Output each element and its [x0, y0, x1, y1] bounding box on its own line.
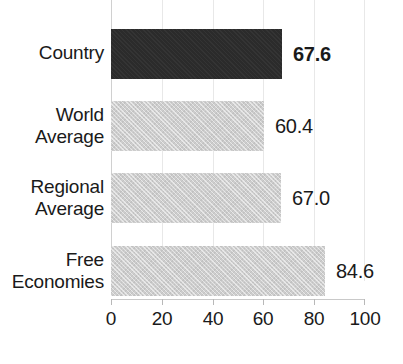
category-label-line1: World — [0, 104, 104, 126]
value-label-free-economies: 84.6 — [336, 261, 374, 281]
x-tick-100 — [364, 299, 365, 305]
category-label-line1: Free — [0, 249, 104, 271]
category-label-line2: Average — [0, 198, 104, 220]
category-label-regional-average: Regional Average — [0, 176, 104, 220]
x-tick-20 — [162, 299, 163, 305]
value-label-regional-average: 67.0 — [292, 188, 330, 208]
bar-chart: Country 67.6 World Average 60.4 Regional… — [0, 0, 403, 364]
value-label-world-average: 60.4 — [275, 116, 313, 136]
bar-row-free-economies: Free Economies 84.6 — [0, 246, 403, 296]
chart-title — [0, 0, 403, 2]
bar-regional-average — [111, 173, 281, 223]
x-tick-40 — [213, 299, 214, 305]
x-tick-60 — [263, 299, 264, 305]
x-tick-80 — [314, 299, 315, 305]
category-label-country: Country — [0, 42, 104, 64]
category-label-line1: Regional — [0, 176, 104, 198]
bar-world-average — [111, 101, 264, 151]
value-label-country: 67.6 — [293, 44, 331, 64]
category-label-world-average: World Average — [0, 104, 104, 148]
bar-country — [111, 29, 282, 79]
category-label-line2: Average — [0, 126, 104, 148]
category-label-line2: Economies — [0, 271, 104, 293]
bar-free-economies — [111, 246, 325, 296]
category-label-line1: Country — [0, 42, 104, 64]
x-tick-0 — [111, 299, 112, 305]
x-tick-label-100: 100 — [335, 308, 395, 330]
bar-row-world-average: World Average 60.4 — [0, 101, 403, 151]
x-axis-line — [111, 299, 364, 300]
category-label-free-economies: Free Economies — [0, 249, 104, 293]
bar-row-regional-average: Regional Average 67.0 — [0, 173, 403, 223]
bar-row-country: Country 67.6 — [0, 29, 403, 79]
